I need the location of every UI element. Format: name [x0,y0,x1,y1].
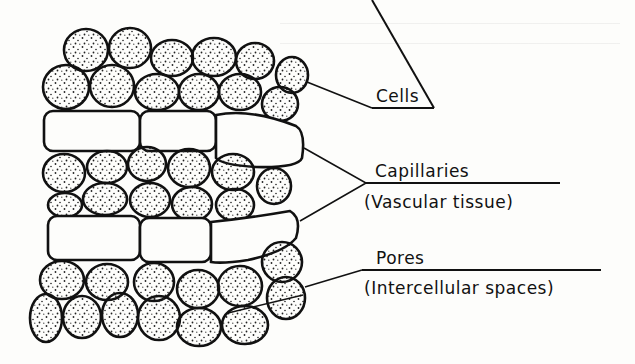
capillary-layer-bottom [48,211,298,263]
label-capillaries: Capillaries [375,161,469,181]
tissue-diagram [0,0,635,364]
label-pores: Pores [376,248,424,268]
cell-layer-top [43,28,308,121]
label-cells: Cells [376,86,419,106]
label-intercellular-spaces: (Intercellular spaces) [364,278,554,298]
label-vascular-tissue: (Vascular tissue) [364,192,513,212]
